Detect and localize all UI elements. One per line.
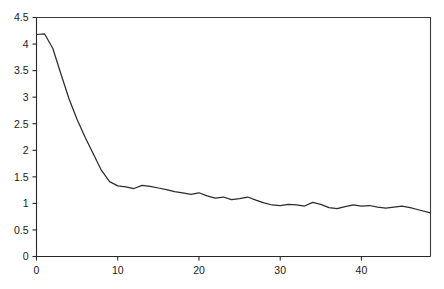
y-tick-label: 0.5	[14, 224, 29, 236]
y-tick-label: 1	[23, 197, 29, 209]
y-axis-tick-marks	[33, 18, 37, 257]
x-tick-label: 30	[274, 264, 286, 276]
y-axis-tick-labels: 00.511.522.533.544.5	[14, 11, 29, 262]
y-tick-label: 3.5	[14, 64, 29, 76]
y-tick-label: 4	[23, 38, 29, 50]
y-tick-label: 4.5	[14, 11, 29, 23]
y-tick-label: 0	[23, 250, 29, 262]
y-tick-label: 1.5	[14, 171, 29, 183]
x-tick-label: 0	[34, 264, 40, 276]
x-axis-tick-marks	[37, 257, 362, 261]
y-tick-label: 3	[23, 91, 29, 103]
data-series-line	[37, 34, 431, 213]
x-axis-tick-labels: 010203040	[34, 264, 368, 276]
plot-frame	[37, 18, 431, 257]
line-chart-svg: 00.511.522.533.544.5 010203040	[0, 0, 444, 289]
y-tick-label: 2.5	[14, 118, 29, 130]
x-tick-label: 20	[193, 264, 205, 276]
chart-figure: 00.511.522.533.544.5 010203040	[0, 0, 444, 289]
y-tick-label: 2	[23, 144, 29, 156]
x-tick-label: 10	[112, 264, 124, 276]
x-tick-label: 40	[356, 264, 368, 276]
